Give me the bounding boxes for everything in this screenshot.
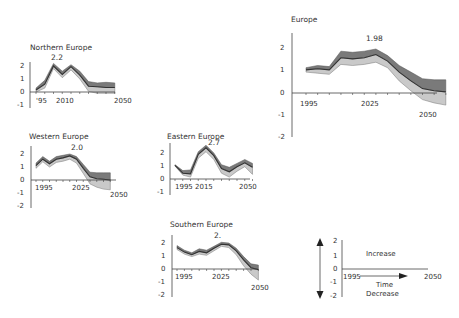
y-tick-label: 0 [280,89,284,97]
end-label: 2050 [424,273,442,281]
y-tick-label: 0 [161,265,165,273]
chart-title: Northern Europe [30,43,92,52]
y-tick-label: -2 [17,202,24,210]
x-tick-label: 2010 [56,97,74,105]
x-tick-label: 2025 [212,273,230,281]
y-tick-label: 1 [20,163,24,171]
x-tick-label: 1995 [35,184,53,192]
x-tick-label: 2050 [251,284,269,292]
y-tick-label: 0 [333,265,337,273]
figure-canvas: Europe 1.98 2 1 0 -1 -2 1995 2025 2050 N… [0,0,459,318]
x-tick-label: 2050 [110,191,128,199]
chart-eastern-europe: Eastern Europe 2.7 2 1 0 -1 1995 2015 20… [157,132,257,196]
x-tick-label: '95 [36,97,47,105]
median-line [175,148,253,174]
y-tick-label: 0 [20,176,24,184]
y-tick-label: 2 [160,149,164,157]
y-tick-label: 0 [20,88,24,96]
x-tick-label: 1995 [175,273,193,281]
y-tick-label: -1 [330,278,337,286]
y-tick-label: -2 [158,291,165,299]
y-tick-label: -1 [17,189,24,197]
x-tick-label: 2050 [114,97,132,105]
data-bands [36,63,115,94]
start-label: 1995 [343,273,361,281]
chart-title: Southern Europe [170,220,233,229]
y-tick-label: 2 [20,62,24,70]
data-bands [306,49,446,105]
x-tick-label: 1995 [175,183,193,191]
y-tick-label: -1 [157,188,164,196]
chart-northern-europe: Northern Europe 2.2 2 1 0 -1 '95 2010 20… [17,43,132,109]
y-tick-label: -1 [17,101,24,109]
chart-western-europe: Western Europe 2.0 2 1 0 -1 -2 1995 2025… [17,132,128,210]
y-tick-label: -2 [278,133,285,141]
y-tick-label: 1 [280,66,284,74]
increase-label: Increase [366,250,396,258]
y-tick-label: 2 [333,237,337,245]
y-tick-label: 0 [160,175,164,183]
x-tick-label: 2025 [361,100,379,108]
chart-europe: Europe 1.98 2 1 0 -1 -2 1995 2025 2050 [278,15,446,141]
decrease-label: Decrease [366,290,399,298]
arrow-up-icon [317,238,324,246]
peak-label: 2.2 [51,53,63,62]
y-tick-label: 2 [161,239,165,247]
y-tick-label: 1 [20,75,24,83]
y-tick-label: 1 [160,162,164,170]
arrow-down-icon [317,291,324,299]
y-tick-label: 1 [333,252,337,260]
arrow-right-icon [399,273,408,279]
y-tick-label: -1 [158,278,165,286]
chart-southern-europe: Southern Europe 2. 2 1 0 -1 -2 1995 2025… [158,220,269,299]
x-tick-label: 2015 [195,183,213,191]
x-tick-label: 1995 [300,100,318,108]
legend-key: 2 1 0 -1 -2 1995 2050 Time Increase Decr… [317,237,442,300]
y-tick-label: -2 [330,292,337,300]
chart-title: Western Europe [29,132,89,141]
peak-label: 2. [214,231,221,240]
x-tick-label: 2050 [239,183,257,191]
peak-label: 2.0 [71,143,83,152]
y-tick-label: 1 [161,252,165,260]
y-tick-label: -1 [278,111,285,119]
x-tick-label: 2050 [419,111,437,119]
peak-label: 2.7 [208,138,220,147]
time-label: Time [375,281,393,289]
peak-label: 1.98 [366,34,383,43]
y-tick-label: 2 [20,150,24,158]
y-tick-label: 2 [280,44,284,52]
data-bands [175,145,253,181]
x-tick-label: 2025 [72,184,90,192]
chart-title: Europe [291,15,318,24]
